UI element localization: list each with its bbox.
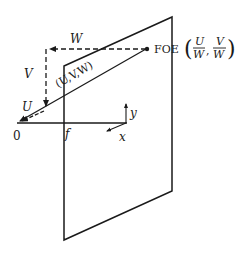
foe-u-denominator: W [193,48,206,61]
foe-u-numerator: U [195,35,205,48]
origin-label: 0 [13,129,21,143]
v-label: V [24,67,34,81]
u-label: U [22,100,33,114]
foe-v-denominator: W [213,48,226,61]
foe-label: FOE [154,43,179,56]
right-paren: ) [227,36,236,61]
foe-v-numerator: V [216,35,225,48]
left-paren: ( [184,36,193,61]
velocity-label: (U,V,W) [53,59,95,91]
foe-point [145,47,149,51]
foe-diagram: 0 f x y U V W (U,V,W) FOE ( U W , V W ) [0,0,243,255]
velocity-line [20,49,146,121]
x-axis-label: x [119,130,126,144]
comma: , [206,44,210,57]
y-axis-label: y [129,106,137,120]
focal-length-label: f [64,127,72,141]
foe-coordinates: ( U W , V W ) [184,35,236,61]
w-label: W [70,32,84,46]
